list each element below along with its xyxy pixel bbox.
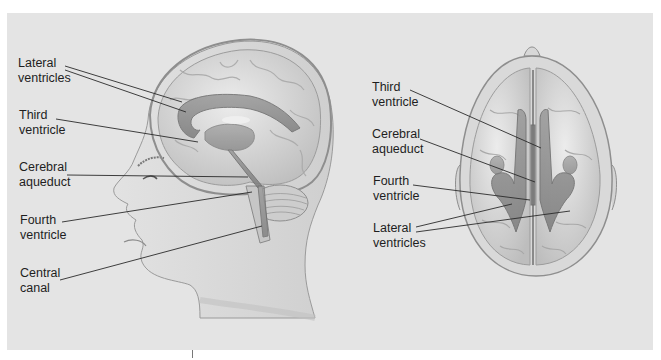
label-fourth-ventricle-top: Fourth ventricle [373,174,420,203]
label-third-ventricle-top: Third ventricle [372,80,419,109]
ventricles-illustration [0,0,661,360]
label-central-canal-side: Central canal [20,266,60,295]
label-lateral-ventricles-top: Lateral ventricles [373,221,426,250]
label-lateral-ventricles-side: Lateral ventricles [18,56,71,85]
label-cerebral-aqueduct-side: Cerebral aqueduct [19,160,70,189]
label-third-ventricle-side: Third ventricle [19,108,66,137]
divider-tick [192,350,193,358]
label-cerebral-aqueduct-top: Cerebral aqueduct [372,127,423,156]
label-fourth-ventricle-side: Fourth ventricle [20,213,67,242]
